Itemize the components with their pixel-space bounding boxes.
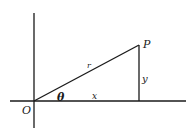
- polar-coordinate-diagram: O P θ r x y: [0, 0, 186, 131]
- angle-label: θ: [57, 91, 65, 104]
- point-label: P: [142, 38, 151, 51]
- radius-line: [34, 45, 139, 101]
- x-leg-label: x: [92, 91, 97, 101]
- origin-label: O: [22, 104, 31, 117]
- y-leg-label: y: [141, 73, 148, 84]
- radius-label: r: [87, 61, 92, 70]
